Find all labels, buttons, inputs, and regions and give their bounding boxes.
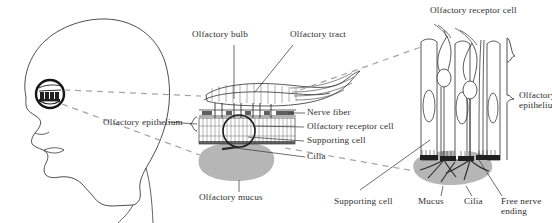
- olfactory-bulb-panel: [168, 45, 360, 192]
- label-olfactory-tract: Olfactory tract: [290, 29, 346, 39]
- olfactory-bulb-body: [206, 71, 360, 106]
- neck-front-line: [118, 205, 133, 223]
- callout-lines-bulb-to-cells: [285, 47, 421, 172]
- label-olfactory-receptor-cell-middle: Olfactory receptor cell: [307, 121, 394, 131]
- label-cilia-middle: Cilia: [307, 151, 326, 161]
- callout-line-right-lower: [285, 148, 420, 172]
- lips-line: [44, 148, 64, 153]
- nostril-line: [35, 132, 49, 134]
- label-nerve-fiber: Nerve fiber: [307, 107, 351, 117]
- leader-mucus-bottom: [441, 186, 443, 196]
- head-olfactory-region-marker: [36, 80, 64, 108]
- label-cilia-bottom: Cilia: [464, 196, 483, 206]
- callout-line-upper: [64, 90, 201, 96]
- head-outline: [25, 19, 170, 206]
- callout-line-right-upper: [300, 47, 421, 90]
- neck-back-line: [146, 168, 153, 223]
- label-free-nerve-ending: Free nerve ending: [501, 196, 549, 217]
- label-olfactory-epithelium-right: Olfactory epithelium: [519, 90, 552, 111]
- label-head-olfactory-epithelium: Olfactory epithelium: [103, 117, 183, 127]
- figure-artwork: [0, 0, 552, 223]
- epithelium-brace-right: [507, 38, 515, 160]
- free-nerve-ending-fiber: [479, 40, 484, 160]
- epithelium-cells-panel: [360, 24, 515, 196]
- callout-line-lower: [62, 104, 200, 155]
- label-olfactory-mucus: Olfactory mucus: [199, 192, 263, 202]
- label-olfactory-receptor-cell-top: Olfactory receptor cell: [430, 5, 522, 15]
- label-olfactory-bulb: Olfactory bulb: [192, 29, 248, 39]
- olfactory-system-figure: Olfactory epithelium Olfactory bulb Olfa…: [0, 0, 552, 223]
- receptor-axons: [434, 24, 477, 45]
- label-mucus-bottom: Mucus: [418, 196, 444, 206]
- label-supporting-cell-bottom: Supporting cell: [334, 196, 393, 206]
- epithelium-band: [199, 118, 295, 144]
- label-supporting-cell-middle: Supporting cell: [307, 135, 366, 145]
- nerve-fiber-speckle: [202, 111, 294, 115]
- leader-cilia-bottom: [466, 186, 472, 196]
